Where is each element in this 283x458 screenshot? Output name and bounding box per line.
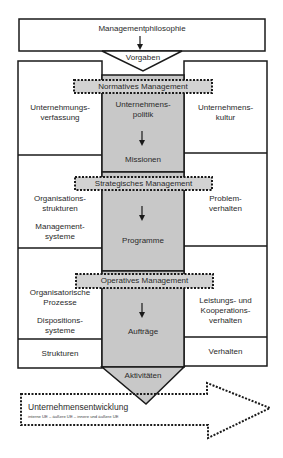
center-missionen: Missionen: [102, 155, 184, 165]
strategic-banner-label: Strategisches Management: [75, 179, 212, 189]
left-strategic-line2: strukturen: [18, 204, 102, 214]
right-strategic-line1: Problem-: [184, 194, 267, 204]
normative-banner-label: Normatives Management: [74, 82, 212, 92]
right-normative-line2: kultur: [184, 113, 267, 123]
left-operative-line3: Dispositions-: [18, 316, 102, 326]
left-strategic-line1: Organisations-: [18, 194, 102, 204]
left-normative-line1: Unternehmungs-: [18, 103, 102, 113]
development-subtitle: interne UE – äußere UE – innere und äuße…: [28, 414, 119, 420]
development-title: Unternehmensentwicklung: [28, 402, 128, 412]
left-operative-line2: Prozesse: [18, 298, 102, 308]
left-operative-line4: systeme: [18, 326, 102, 336]
center-aktivitaeten: Aktivitäten: [102, 371, 184, 381]
center-programme: Programme: [102, 236, 184, 246]
left-strategic-line3: Management-: [18, 222, 102, 232]
center-politik-line1: Unternehmens-: [102, 100, 184, 110]
right-operative-line3: verhalten: [184, 316, 267, 326]
vorgaben-label: Vorgaben: [102, 53, 184, 63]
left-normative-line2: verfassung: [18, 113, 102, 123]
right-normative-line1: Unternehmens-: [184, 103, 267, 113]
right-strategic-line2: verhalten: [184, 204, 267, 214]
left-footer-strukturen: Strukturen: [18, 349, 102, 359]
right-operative-line1: Leistungs- und: [184, 296, 267, 306]
center-auftraege: Aufträge: [102, 327, 184, 337]
right-footer-verhalten: Verhalten: [184, 347, 267, 357]
left-operative-line1: Organisatorische: [18, 288, 102, 298]
left-strategic-line4: systeme: [18, 232, 102, 242]
operative-banner-label: Operatives Management: [76, 276, 213, 286]
philosophy-label: Managementphilosophie: [19, 24, 265, 34]
right-operative-line2: Kooperations-: [184, 306, 267, 316]
center-politik-line2: politik: [102, 110, 184, 120]
management-model-diagram: Managementphilosophie Vorgaben Normative…: [0, 0, 283, 458]
